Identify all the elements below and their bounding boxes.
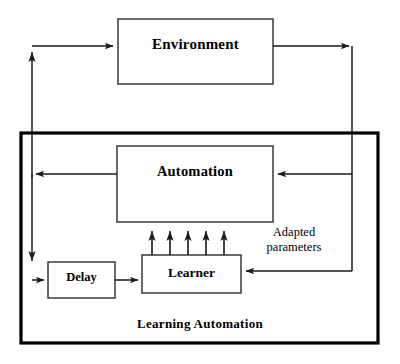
learning-automation-diagram: Environment Automation Delay Learner Ada… (0, 0, 400, 364)
diagram-canvas (0, 0, 400, 364)
edge-environment-to-right-bus (273, 46, 352, 271)
edge-to-delay (32, 174, 44, 280)
environment-box (118, 19, 273, 84)
adapted-parameter-arrows (152, 231, 224, 255)
automation-box (117, 146, 273, 222)
edge-automation-to-environment (32, 46, 117, 178)
learner-box (142, 255, 241, 293)
delay-box (48, 262, 115, 298)
